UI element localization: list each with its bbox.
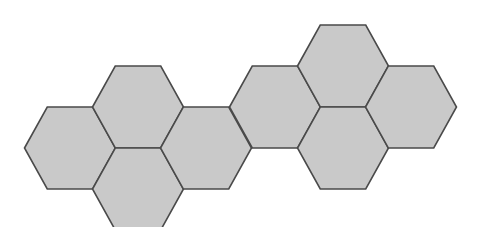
hexagon-diagram xyxy=(0,0,486,227)
